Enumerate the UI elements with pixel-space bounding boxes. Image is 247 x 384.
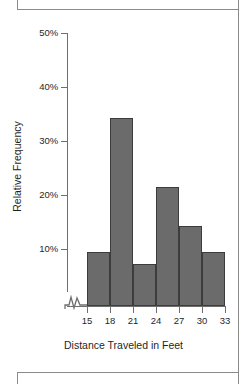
y-axis-line [67,33,68,292]
x-tick-label-33: 33 [213,315,237,326]
y-tick-40 [61,87,68,88]
y-tick-20 [61,195,68,196]
x-tick-27 [179,306,180,313]
x-tick-label-21: 21 [121,315,145,326]
y-axis-title: Relative Frequency [11,87,24,247]
y-tick-label-20-wrap: 20% [20,190,58,200]
x-tick-label-30: 30 [190,315,214,326]
y-tick-50 [61,33,68,34]
x-axis-title: Distance Traveled in Feet [0,339,247,352]
x-tick-24 [156,306,157,313]
x-tick-15 [87,306,88,313]
bar-15-18 [87,252,110,306]
x-tick-33 [225,306,226,313]
bar-30-33 [202,252,225,306]
y-tick-label-50-wrap: 50% [20,28,58,38]
y-tick-label-10: 10% [24,244,58,254]
bar-18-21 [110,118,133,306]
x-tick-label-27: 27 [167,315,191,326]
x-tick-30 [202,306,203,313]
y-tick-30 [61,141,68,142]
x-tick-label-15: 15 [75,315,99,326]
bar-21-24 [133,264,156,306]
axis-break-zigzag-icon [64,292,88,310]
y-tick-10 [61,249,68,250]
y-tick-label-20: 20% [24,190,58,200]
bar-24-27 [156,187,179,307]
y-tick-label-40-wrap: 40% [20,82,58,92]
y-tick-label-50: 50% [24,28,58,38]
y-tick-label-10-wrap: 10% [20,244,58,254]
bar-27-30 [179,226,202,306]
x-tick-label-24: 24 [144,315,168,326]
y-tick-label-30-wrap: 30% [20,136,58,146]
y-tick-label-30: 30% [24,136,58,146]
x-tick-label-18: 18 [98,315,122,326]
x-tick-21 [133,306,134,313]
y-tick-label-40: 40% [24,82,58,92]
x-tick-18 [110,306,111,313]
